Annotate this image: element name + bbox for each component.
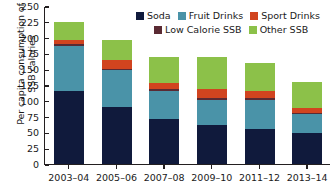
bar-stack[interactable] <box>292 82 322 164</box>
legend-label: Fruit Drinks <box>189 10 243 21</box>
legend-item[interactable]: Other SSB <box>249 24 309 35</box>
bar-stack[interactable] <box>54 22 84 164</box>
bar-segment[interactable] <box>149 57 179 83</box>
bar-segment[interactable] <box>54 46 84 91</box>
legend-swatch-icon <box>249 26 257 34</box>
bar-segment[interactable] <box>197 57 227 89</box>
x-tick-mark <box>306 164 307 169</box>
y-tick-label: 175 <box>21 48 39 60</box>
legend-label: Soda <box>147 10 171 21</box>
chart-legend: SodaFruit DrinksSport Drinks Low Calorie… <box>136 10 332 38</box>
bar-segment[interactable] <box>102 107 132 164</box>
x-tick-mark <box>68 164 69 169</box>
y-tick-label: 225 <box>21 17 39 29</box>
legend-item[interactable]: Sport Drinks <box>250 10 320 21</box>
bar-segment[interactable] <box>102 60 132 69</box>
bar-segment[interactable] <box>149 91 179 119</box>
legend-swatch-icon <box>178 12 186 20</box>
x-tick-label: 2009–10 <box>191 172 232 184</box>
bar-segment[interactable] <box>292 82 322 108</box>
x-tick-mark <box>211 164 212 169</box>
y-tick-label: 200 <box>21 33 39 45</box>
bar-segment[interactable] <box>292 133 322 164</box>
x-tick-label: 2005–06 <box>96 172 137 184</box>
y-tick-label: 150 <box>21 64 39 76</box>
bar-segment[interactable] <box>197 125 227 164</box>
legend-swatch-icon <box>250 12 258 20</box>
bar-segment[interactable] <box>102 40 132 60</box>
legend-row-2: Low Calorie SSBOther SSB <box>136 24 332 35</box>
y-tick-label: 25 <box>27 143 39 155</box>
legend-item[interactable]: Soda <box>136 10 171 21</box>
bar-segment[interactable] <box>292 114 322 133</box>
x-tick-label: 2003–04 <box>48 172 89 184</box>
legend-item[interactable]: Fruit Drinks <box>178 10 243 21</box>
bar-segment[interactable] <box>245 91 275 98</box>
y-tick-label: 125 <box>21 80 39 92</box>
y-tick-label: 75 <box>27 112 39 124</box>
bar-segment[interactable] <box>54 22 84 39</box>
bar-segment[interactable] <box>245 100 275 130</box>
legend-label: Other SSB <box>260 24 309 35</box>
x-tick-label: 2013–14 <box>287 172 328 184</box>
legend-swatch-icon <box>136 12 144 20</box>
bar-segment[interactable] <box>149 119 179 165</box>
x-tick-mark <box>163 164 164 169</box>
bar-segment[interactable] <box>54 91 84 164</box>
y-tick-mark <box>45 164 49 165</box>
legend-item[interactable]: Low Calorie SSB <box>154 24 242 35</box>
x-tick-mark <box>259 164 260 169</box>
bar-segment[interactable] <box>102 70 132 107</box>
x-tick-label: 2007–08 <box>144 172 185 184</box>
x-tick-mark <box>116 164 117 169</box>
bar-segment[interactable] <box>197 100 227 126</box>
bar-stack[interactable] <box>197 57 227 164</box>
y-tick-label: 100 <box>21 96 39 108</box>
bar-stack[interactable] <box>149 57 179 164</box>
legend-row-1: SodaFruit DrinksSport Drinks <box>136 10 332 21</box>
stacked-bar-chart: Per capita consumption of SSB calories 2… <box>0 0 334 184</box>
bar-stack[interactable] <box>102 40 132 164</box>
y-tick-label: 50 <box>27 127 39 139</box>
bar-segment[interactable] <box>197 89 227 98</box>
y-tick-label: 250 <box>21 1 39 13</box>
bar-segment[interactable] <box>245 63 275 91</box>
legend-label: Low Calorie SSB <box>165 24 242 35</box>
bar-segment[interactable] <box>245 129 275 164</box>
legend-swatch-icon <box>154 26 162 34</box>
legend-label: Sport Drinks <box>261 10 320 21</box>
y-tick-label: 0 <box>33 159 39 171</box>
bar-stack[interactable] <box>245 63 275 164</box>
x-tick-label: 2011–12 <box>239 172 280 184</box>
